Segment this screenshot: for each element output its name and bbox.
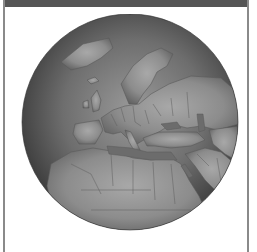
globe-svg [21,14,239,232]
globe-map[interactable] [21,14,239,232]
panel-header [5,0,247,7]
